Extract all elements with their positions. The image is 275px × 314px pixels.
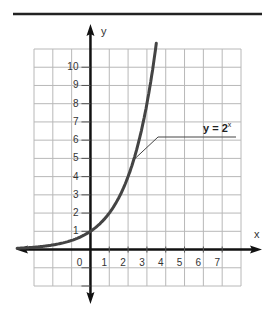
x-tick-label: 3 bbox=[139, 257, 145, 268]
y-tick-label: 7 bbox=[73, 116, 79, 127]
exponential-graph: 0123456712345678910 y = 2x x y bbox=[0, 0, 275, 314]
x-tick-label: 2 bbox=[120, 257, 126, 268]
y-tick-label: 4 bbox=[73, 171, 79, 182]
x-tick-label: 4 bbox=[158, 257, 164, 268]
curve-y-equals-2-to-x bbox=[17, 43, 156, 248]
x-tick-label: 6 bbox=[196, 257, 202, 268]
y-tick-label: 10 bbox=[67, 61, 79, 72]
y-tick-label: 3 bbox=[73, 189, 79, 200]
equation-label: y = 2x bbox=[203, 121, 232, 134]
x-tick-label: 0 bbox=[77, 257, 83, 268]
y-tick-label: 2 bbox=[73, 207, 79, 218]
x-tick-label: 7 bbox=[214, 257, 220, 268]
y-axis-label: y bbox=[101, 25, 107, 37]
y-tick-label: 1 bbox=[73, 225, 79, 236]
y-tick-label: 5 bbox=[73, 152, 79, 163]
y-tick-label: 6 bbox=[73, 134, 79, 145]
y-tick-label: 8 bbox=[73, 98, 79, 109]
y-tick-label: 9 bbox=[73, 79, 79, 90]
x-tick-label: 5 bbox=[177, 257, 183, 268]
x-tick-label: 1 bbox=[101, 257, 107, 268]
x-axis-label: x bbox=[254, 228, 260, 240]
